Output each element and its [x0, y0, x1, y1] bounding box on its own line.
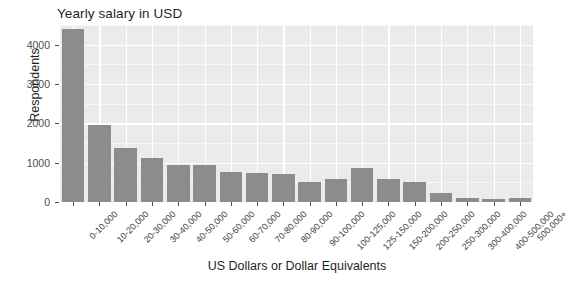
- x-axis-tick-mark: [362, 202, 363, 206]
- y-axis-tick-label: 3000: [6, 78, 50, 90]
- y-axis-tick-label: 4000: [6, 39, 50, 51]
- x-axis-tick-mark: [494, 202, 495, 206]
- x-axis-tick-mark: [467, 202, 468, 206]
- x-axis-title: US Dollars or Dollar Equivalents: [60, 259, 534, 273]
- x-axis-tick-mark: [388, 202, 389, 206]
- y-axis-tick-mark: [55, 84, 59, 85]
- x-axis-tick-mark: [520, 202, 521, 206]
- y-axis-tick-mark: [55, 45, 59, 46]
- x-axis-tick-mark: [283, 202, 284, 206]
- x-axis-tick-mark: [178, 202, 179, 206]
- y-axis-tick-mark: [55, 202, 59, 203]
- x-axis-tick-mark: [441, 202, 442, 206]
- x-axis-tick-mark: [310, 202, 311, 206]
- y-axis-tick-mark: [55, 163, 59, 164]
- x-axis-tick-mark: [336, 202, 337, 206]
- y-axis-tick-label: 0: [6, 196, 50, 208]
- x-axis-tick-mark: [257, 202, 258, 206]
- x-axis-tick-mark: [152, 202, 153, 206]
- x-axis-tick-mark: [126, 202, 127, 206]
- y-axis-tick-label: 2000: [6, 117, 50, 129]
- x-axis-tick-mark: [231, 202, 232, 206]
- x-axis-tick-mark: [205, 202, 206, 206]
- y-axis-tick-mark: [55, 123, 59, 124]
- x-axis-tick-mark: [415, 202, 416, 206]
- y-axis-tick-label: 1000: [6, 157, 50, 169]
- x-axis-tick-mark: [73, 202, 74, 206]
- x-axis-tick-mark: [99, 202, 100, 206]
